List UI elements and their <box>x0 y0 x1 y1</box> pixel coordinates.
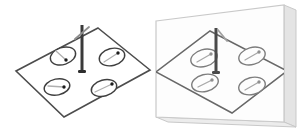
object-compass-needle-tip <box>116 51 119 54</box>
object-compass-needle-tip <box>62 85 65 88</box>
reflected-compass-needle-tip <box>257 50 260 53</box>
object-pole-base <box>78 70 86 73</box>
mirror-side-edge <box>284 5 296 127</box>
object-compass-needle-tip <box>64 58 67 61</box>
object-scene <box>16 25 150 117</box>
reflected-compass-needle-tip <box>210 78 213 81</box>
reflected-pole-base <box>212 71 220 74</box>
reflected-compass-needle-tip <box>257 80 260 83</box>
mirror-reflection-diagram <box>0 0 306 134</box>
reflected-compass-needle-tip <box>209 52 212 55</box>
object-compass-needle-tip <box>110 82 113 85</box>
diagram-canvas <box>0 0 306 134</box>
